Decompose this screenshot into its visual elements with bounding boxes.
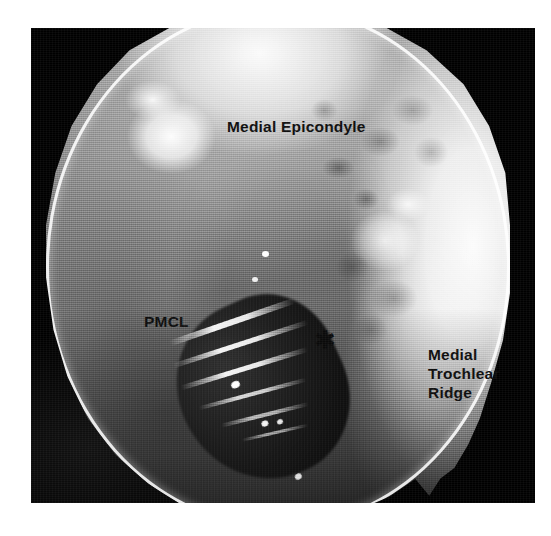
photograph-frame: Medial Epicondyle PMCL Medial Trochlear … (31, 28, 535, 503)
asterisk-marker: ✱ (314, 327, 336, 353)
arthroscope-field-of-view (46, 28, 510, 503)
label-medial-epicondyle: Medial Epicondyle (227, 118, 366, 137)
label-pmcl: PMCL (144, 313, 189, 332)
photographic-grain (46, 28, 510, 503)
label-medial-trochlear-ridge: Medial Trochlear Ridge (428, 346, 500, 403)
figure-page: Medial Epicondyle PMCL Medial Trochlear … (0, 0, 551, 536)
